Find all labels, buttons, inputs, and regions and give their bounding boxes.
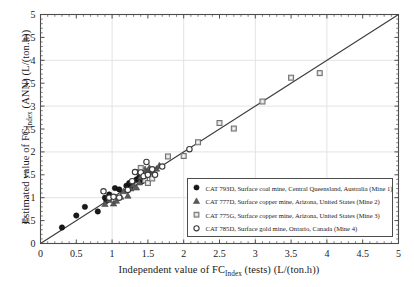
- data-point-open-square: [181, 154, 186, 159]
- data-point-open-circle: [187, 146, 192, 151]
- x-tick-label: 3.5: [285, 248, 298, 259]
- data-point-open-circle: [129, 179, 134, 184]
- y-axis-label-post: (ANN) (L/(ton.h)): [20, 30, 31, 111]
- data-point-filled-circle: [95, 209, 100, 214]
- x-tick-label: 2: [181, 248, 186, 259]
- data-point-open-square: [231, 126, 236, 131]
- data-point-filled-circle: [74, 213, 79, 218]
- data-point-open-circle: [145, 172, 150, 177]
- data-point-open-circle: [132, 169, 137, 174]
- square-inner: [167, 156, 169, 158]
- square-inner: [233, 128, 235, 130]
- square-inner: [290, 77, 292, 79]
- square-inner: [262, 101, 264, 103]
- square-inner: [147, 182, 149, 184]
- x-tick-label: 5: [396, 248, 401, 259]
- data-point-open-square: [260, 99, 265, 104]
- data-point-open-circle: [101, 189, 106, 194]
- legend-label: CAT 793D, Surface coal mine, Central Que…: [206, 185, 393, 193]
- x-tick-label: 0: [38, 248, 43, 259]
- data-point-filled-circle: [82, 204, 87, 209]
- figure: 00.511.522.533.544.5500.511.522.533.544.…: [0, 0, 414, 287]
- data-point-filled-circle: [59, 225, 64, 230]
- x-tick-label: 0.5: [70, 248, 83, 259]
- square-inner: [151, 178, 153, 180]
- square-inner: [319, 72, 321, 74]
- square-inner: [140, 167, 142, 169]
- x-tick-label: 1: [110, 248, 115, 259]
- y-axis-label: Estimated value of FCIndex (ANN) (L/(ton…: [20, 12, 34, 242]
- y-axis-label-pre: Estimated value of FC: [20, 128, 31, 224]
- x-tick-label: 3: [253, 248, 258, 259]
- x-tick-label: 1.5: [142, 248, 155, 259]
- data-point-open-square: [217, 121, 222, 126]
- x-axis-label-sub: Index: [225, 270, 242, 278]
- data-point-open-circle: [117, 195, 122, 200]
- square-inner: [196, 214, 198, 216]
- data-point-open-square: [165, 154, 170, 159]
- data-point-open-square: [194, 212, 199, 217]
- y-axis-label-sub: Index: [26, 111, 34, 128]
- data-point-filled-circle: [117, 187, 122, 192]
- x-tick-label: 2.5: [213, 248, 226, 259]
- data-point-open-circle: [194, 226, 199, 231]
- x-tick-label: 4.5: [356, 248, 369, 259]
- x-axis-label: Independent value of FCIndex (tests) (L/…: [40, 264, 398, 278]
- legend-label: CAT 785D, Surface gold mine, Ontario, Ca…: [206, 225, 358, 233]
- legend: CAT 793D, Surface coal mine, Central Que…: [188, 179, 393, 237]
- data-point-open-circle: [144, 159, 149, 164]
- square-inner: [183, 155, 185, 157]
- data-point-open-square: [317, 71, 322, 76]
- data-point-open-circle: [160, 164, 165, 169]
- data-point-open-square: [196, 140, 201, 145]
- legend-label: CAT 777D, Surface copper mine, Arizona, …: [206, 198, 380, 206]
- x-tick-label: 4: [324, 248, 329, 259]
- legend-label: CAT 775G, Surface copper mine, Arizona, …: [206, 212, 380, 220]
- data-point-open-circle: [149, 167, 154, 172]
- square-inner: [219, 122, 221, 124]
- data-point-filled-circle: [194, 185, 199, 190]
- data-point-open-circle: [111, 194, 116, 199]
- square-inner: [197, 141, 199, 143]
- scatter-plot: 00.511.522.533.544.5500.511.522.533.544.…: [0, 0, 414, 287]
- data-point-open-circle: [152, 172, 157, 177]
- data-point-open-square: [289, 75, 294, 80]
- data-point-open-circle: [125, 187, 130, 192]
- x-axis-label-post: (tests) (L/(ton.h)): [242, 264, 320, 275]
- x-axis-label-pre: Independent value of FC: [119, 264, 225, 275]
- series-4: [101, 146, 192, 200]
